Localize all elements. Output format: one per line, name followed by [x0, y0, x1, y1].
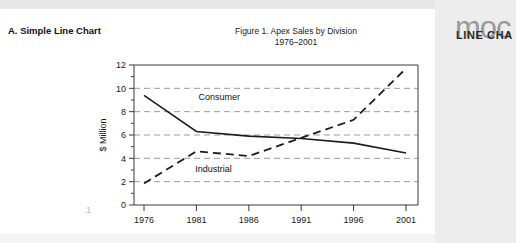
series-line-consumer: [144, 95, 406, 153]
y-axis-title: $ Million: [98, 118, 108, 151]
x-tick-label-1996: 1996: [344, 215, 364, 225]
y-tick-label-12: 12: [116, 60, 126, 70]
document-page: A. Simple Line Chart Figure 1. Apex Sale…: [0, 9, 435, 234]
chart-svg: 024681012 197619811986199119962001 $ Mil…: [96, 57, 426, 232]
chart-tick-marks: [129, 65, 406, 211]
chart-series-lines: [144, 69, 406, 184]
y-tick-label-2: 2: [121, 177, 126, 187]
series-label-consumer: Consumer: [198, 92, 240, 102]
figure-title-line-2: 1976–2001: [196, 37, 396, 48]
bottom-strip: [0, 234, 435, 243]
side-panel: moc LINE CHA: [435, 0, 516, 243]
line-chart-figure: 024681012 197619811986199119962001 $ Mil…: [96, 57, 426, 232]
x-tick-label-1986: 1986: [239, 215, 259, 225]
brand-subtitle: LINE CHA: [456, 30, 513, 41]
x-tick-label-1976: 1976: [134, 215, 154, 225]
y-tick-label-10: 10: [116, 84, 126, 94]
x-tick-label-2001: 2001: [396, 215, 416, 225]
y-tick-label-4: 4: [121, 154, 126, 164]
figure-title-line-1: Figure 1. Apex Sales by Division: [235, 26, 357, 36]
screenshot-root: A. Simple Line Chart Figure 1. Apex Sale…: [0, 0, 516, 243]
figure-title: Figure 1. Apex Sales by Division 1976–20…: [196, 26, 396, 48]
y-tick-label-0: 0: [121, 200, 126, 210]
series-line-industrial: [144, 69, 406, 184]
chart-y-tick-labels: 024681012: [116, 60, 126, 210]
y-tick-label-6: 6: [121, 130, 126, 140]
x-tick-label-1991: 1991: [291, 215, 311, 225]
y-tick-label-8: 8: [121, 107, 126, 117]
chart-gridlines: [134, 88, 418, 181]
series-label-industrial: Industrial: [195, 164, 232, 174]
chart-x-tick-labels: 197619811986199119962001: [134, 215, 416, 225]
page-number: 1: [86, 205, 91, 215]
x-tick-label-1981: 1981: [186, 215, 206, 225]
chart-y-axis-title: $ Million: [98, 118, 108, 151]
section-heading: A. Simple Line Chart: [8, 25, 101, 36]
